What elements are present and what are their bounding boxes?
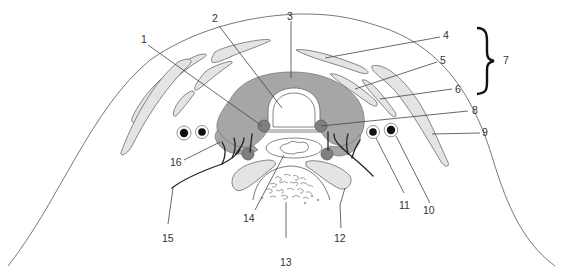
trachea-inner: [273, 93, 315, 127]
prevertebral-muscle-right: [306, 161, 351, 189]
label-8: 8: [472, 104, 478, 116]
label-11: 11: [399, 199, 410, 211]
muscle-left-mid: [195, 61, 233, 90]
label-4: 4: [443, 29, 449, 41]
label-12: 12: [334, 232, 346, 244]
label-3: 3: [287, 10, 293, 22]
label-2: 2: [212, 12, 218, 24]
label-5: 5: [440, 54, 446, 66]
neck-cross-section-diagram: 1 2 3 4 5 6 7 8 9 10 11 12 13 14 15 16: [0, 0, 565, 274]
muscle-left-small: [173, 91, 194, 116]
muscle-left-upper-long: [211, 39, 270, 62]
prevertebral-muscle-left: [232, 160, 275, 191]
parathyroid-lower-left: [242, 148, 254, 160]
vertebral-body-texture: [261, 174, 319, 204]
label-9: 9: [482, 126, 488, 138]
label-10: 10: [423, 204, 435, 216]
label-1: 1: [141, 33, 147, 45]
parathyroid-lower-right: [321, 148, 333, 160]
label-13: 13: [280, 256, 292, 268]
label-14: 14: [243, 212, 255, 224]
bracket-7: [477, 28, 494, 94]
label-6: 6: [455, 83, 461, 95]
vessels-right: [367, 123, 398, 138]
label-7: 7: [503, 54, 509, 66]
label-15: 15: [162, 232, 174, 244]
parathyroid-upper-left: [258, 120, 270, 132]
label-16: 16: [170, 156, 182, 168]
muscle-right-upper-long: [296, 50, 368, 74]
sternocleidomastoid-right: [372, 65, 449, 166]
vessels-left: [177, 126, 209, 141]
